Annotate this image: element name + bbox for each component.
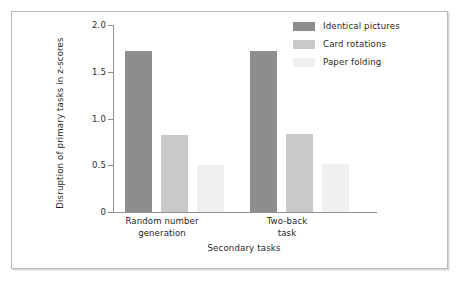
x-axis-line xyxy=(113,212,377,213)
x-tick-label-line1: Random number xyxy=(102,216,222,228)
x-tick-label-line2: generation xyxy=(102,228,222,240)
legend-item-card-rotations: Card rotations xyxy=(293,36,443,52)
x-tick-label-two-back-task: Two-back task xyxy=(227,216,347,239)
y-tick-mark-0 xyxy=(108,212,113,213)
legend-label-paper-folding: Paper folding xyxy=(323,57,381,67)
x-tick-label-random-number-generation: Random number generation xyxy=(102,216,222,239)
legend-swatch-card-rotations xyxy=(293,40,315,49)
x-tick-label-line2: task xyxy=(227,228,347,240)
y-tick-label-2.0: 2.0 xyxy=(66,20,106,30)
legend-item-paper-folding: Paper folding xyxy=(293,54,443,70)
legend-label-identical-pictures: Identical pictures xyxy=(323,21,400,31)
legend-swatch-paper-folding xyxy=(293,58,315,67)
bar-card-rotations-two-back-task xyxy=(286,134,313,212)
y-axis-title: Disruption of primary tasks in z-scores xyxy=(55,25,65,221)
bar-paper-folding-two-back-task xyxy=(322,164,349,212)
y-tick-label-0: 0 xyxy=(66,207,106,217)
y-tick-label-1.5: 1.5 xyxy=(66,67,106,77)
figure: 2.0 1.5 1.0 0.5 0 Disruption of primary … xyxy=(0,0,461,281)
y-tick-label-0.5: 0.5 xyxy=(66,160,106,170)
bar-identical-pictures-two-back-task xyxy=(250,51,277,212)
legend: Identical pictures Card rotations Paper … xyxy=(293,18,443,72)
x-axis-title: Secondary tasks xyxy=(113,243,375,253)
y-tick-labels: 2.0 1.5 1.0 0.5 0 xyxy=(62,0,106,281)
bar-card-rotations-random-number-generation xyxy=(161,135,188,212)
legend-swatch-identical-pictures xyxy=(293,22,315,31)
y-tick-label-1.0: 1.0 xyxy=(66,114,106,124)
legend-label-card-rotations: Card rotations xyxy=(323,39,386,49)
x-tick-label-line1: Two-back xyxy=(227,216,347,228)
bar-paper-folding-random-number-generation xyxy=(197,165,224,212)
bar-identical-pictures-random-number-generation xyxy=(125,51,152,212)
legend-item-identical-pictures: Identical pictures xyxy=(293,18,443,34)
